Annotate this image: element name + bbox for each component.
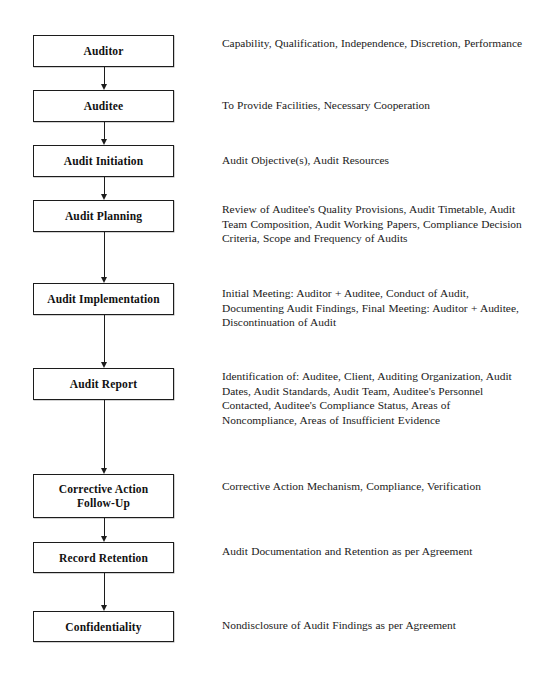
- description-corrective-action-follow-up: Corrective Action Mechanism, Compliance,…: [222, 479, 524, 494]
- arrow-record-retention-to-confidentiality: [101, 573, 108, 611]
- process-box-record-retention[interactable]: Record Retention: [33, 542, 174, 573]
- process-box-audit-implementation[interactable]: Audit Implementation: [33, 283, 174, 315]
- audit-process-flowchart: Auditor Capability, Qualification, Indep…: [0, 0, 536, 685]
- process-box-corrective-action-follow-up[interactable]: Corrective Action Follow-Up: [33, 474, 174, 518]
- arrow-stem: [104, 518, 106, 536]
- arrow-audit-planning-to-audit-implementation: [101, 232, 108, 283]
- description-audit-initiation: Audit Objective(s), Audit Resources: [222, 153, 524, 168]
- arrow-stem: [104, 67, 106, 84]
- process-box-label: Audit Initiation: [61, 154, 146, 168]
- process-box-label: Audit Report: [67, 377, 140, 391]
- process-box-audit-planning[interactable]: Audit Planning: [33, 200, 174, 232]
- description-auditee: To Provide Facilities, Necessary Coopera…: [222, 98, 524, 113]
- process-box-audit-report[interactable]: Audit Report: [33, 368, 174, 400]
- process-box-label: Corrective Action Follow-Up: [56, 482, 152, 510]
- arrow-audit-report-to-corrective-action: [101, 400, 108, 474]
- description-audit-planning: Review of Auditee's Quality Provisions, …: [222, 202, 524, 246]
- process-box-auditee[interactable]: Auditee: [33, 90, 174, 122]
- process-box-audit-initiation[interactable]: Audit Initiation: [33, 145, 174, 177]
- arrow-stem: [104, 122, 106, 139]
- arrow-corrective-action-to-record-retention: [101, 518, 108, 542]
- description-audit-report: Identification of: Auditee, Client, Audi…: [222, 369, 524, 427]
- arrow-stem: [104, 177, 106, 194]
- process-box-auditor[interactable]: Auditor: [33, 35, 174, 67]
- description-auditor: Capability, Qualification, Independence,…: [222, 36, 524, 51]
- description-record-retention: Audit Documentation and Retention as per…: [222, 544, 524, 559]
- description-audit-implementation: Initial Meeting: Auditor + Auditee, Cond…: [222, 286, 524, 330]
- process-box-confidentiality[interactable]: Confidentiality: [33, 611, 174, 642]
- process-box-label: Confidentiality: [62, 620, 144, 634]
- process-box-label: Record Retention: [56, 551, 151, 565]
- process-box-label: Audit Implementation: [44, 292, 163, 306]
- process-box-label: Audit Planning: [62, 209, 145, 223]
- arrow-stem: [104, 315, 106, 362]
- arrow-auditee-to-audit-initiation: [101, 122, 108, 145]
- arrow-stem: [104, 400, 106, 468]
- arrow-stem: [104, 573, 106, 605]
- process-box-label: Auditee: [81, 99, 126, 113]
- arrow-audit-initiation-to-audit-planning: [101, 177, 108, 200]
- description-confidentiality: Nondisclosure of Audit Findings as per A…: [222, 618, 524, 633]
- arrow-auditor-to-auditee: [101, 67, 108, 90]
- process-box-label: Auditor: [80, 44, 126, 58]
- arrow-audit-implementation-to-audit-report: [101, 315, 108, 368]
- arrow-stem: [104, 232, 106, 277]
